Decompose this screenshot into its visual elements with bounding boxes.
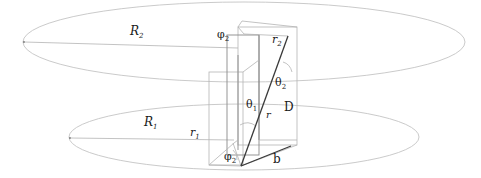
upper-ellipse xyxy=(23,2,465,82)
lower-ellipse xyxy=(69,104,419,170)
label-D: D xyxy=(284,100,294,114)
label-theta1: θ1 xyxy=(246,98,257,113)
geometry-diagram: R2 φ2 r2 θ2 θ1 D r R1 r1 φ2 b xyxy=(0,0,481,178)
label-r: r xyxy=(266,109,272,120)
label-theta2: θ2 xyxy=(275,76,286,91)
vector-b-line xyxy=(241,146,291,166)
box-wireframe xyxy=(209,21,297,166)
label-R2: R2 xyxy=(129,24,144,40)
label-r1: r1 xyxy=(190,126,200,141)
label-phi2-top: φ2 xyxy=(217,28,229,43)
label-phi2-bottom: φ2 xyxy=(224,150,236,165)
label-r2: r2 xyxy=(272,33,282,48)
radius-R2-line xyxy=(24,42,238,48)
label-R1: R1 xyxy=(143,115,158,131)
label-b: b xyxy=(273,152,281,166)
